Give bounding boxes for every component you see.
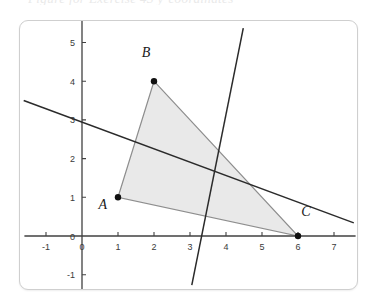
y-tick-label--1: -1 — [67, 270, 75, 280]
point-A-dot — [115, 194, 121, 200]
y-tick-label-2: 2 — [70, 154, 75, 164]
x-tick-label-7: 7 — [331, 242, 336, 252]
coordinate-plane-plot: -101234567-1012345ABC — [20, 21, 357, 289]
y-tick-label-4: 4 — [70, 77, 75, 87]
point-B-label: B — [142, 45, 151, 60]
x-tick-label--1: -1 — [42, 242, 50, 252]
y-tick-label-3: 3 — [70, 115, 75, 125]
point-C-dot — [295, 233, 301, 239]
x-tick-label-5: 5 — [259, 242, 264, 252]
triangle-ABC — [118, 81, 298, 236]
point-C-label: C — [301, 204, 311, 219]
y-tick-label-1: 1 — [70, 193, 75, 203]
x-tick-label-3: 3 — [187, 242, 192, 252]
clipped-caption-text: Figure for Exercise 43 y-coordinates — [28, 0, 348, 5]
y-tick-label-0: 0 — [70, 232, 75, 242]
x-tick-label-0: 0 — [79, 242, 84, 252]
point-A-label: A — [98, 197, 108, 212]
x-tick-label-1: 1 — [115, 242, 120, 252]
x-tick-label-4: 4 — [223, 242, 228, 252]
figure-root: Figure for Exercise 43 y-coordinates -10… — [0, 0, 366, 297]
point-B-dot — [151, 78, 157, 84]
graph-card: -101234567-1012345ABC — [19, 20, 358, 290]
x-tick-label-6: 6 — [295, 242, 300, 252]
x-tick-label-2: 2 — [151, 242, 156, 252]
y-tick-label-5: 5 — [70, 38, 75, 48]
